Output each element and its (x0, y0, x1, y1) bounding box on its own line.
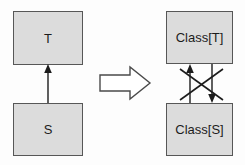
diagram-canvas: T S Class[T] (0, 0, 245, 165)
cross-out-mark-icon (180, 69, 223, 100)
uml-box-class-t-label: Class[T] (176, 31, 224, 44)
inheritance-arrow-s-to-t (44, 64, 52, 103)
association-arrow-down-head-icon (208, 94, 216, 103)
uml-box-class-s[interactable]: Class[S] (166, 103, 233, 156)
inheritance-arrow-head-icon (44, 64, 52, 73)
association-arrow-down (208, 64, 216, 103)
cross-mark-stroke-two (180, 69, 223, 100)
uml-box-s[interactable]: S (13, 103, 83, 156)
uml-box-t[interactable]: T (13, 11, 83, 65)
cross-mark-stroke-one (180, 69, 223, 100)
association-arrow-up (186, 64, 194, 103)
block-arrow-icon (100, 67, 150, 99)
uml-box-t-label: T (44, 32, 52, 45)
uml-box-class-t[interactable]: Class[T] (166, 11, 233, 64)
uml-box-class-s-label: Class[S] (175, 123, 223, 136)
transform-block-arrow (100, 67, 150, 99)
association-arrow-up-head-icon (186, 64, 194, 73)
uml-box-s-label: S (44, 123, 53, 136)
